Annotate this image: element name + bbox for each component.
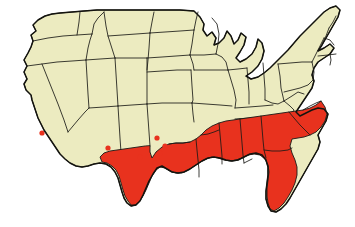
us-map-svg: [0, 0, 355, 227]
isolated-occurrence-dot: [154, 135, 159, 140]
isolated-occurrence-dot: [152, 160, 157, 165]
isolated-occurrence-dot: [105, 145, 110, 150]
isolated-occurrence-dot: [157, 150, 162, 155]
isolated-occurrence-dot: [137, 154, 142, 159]
isolated-occurrence-dot: [39, 130, 44, 135]
us-range-map-figure: [0, 0, 355, 227]
isolated-occurrence-dot: [162, 143, 167, 148]
